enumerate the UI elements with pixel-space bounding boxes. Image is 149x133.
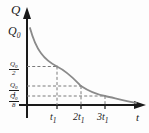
x-tick-label-3t1: 3t1: [97, 111, 109, 125]
y-tick-q0-base: Q: [8, 24, 17, 38]
y-tick-eighth-numerator: Q0: [9, 93, 19, 101]
x-tick-2t1-base: 2t: [73, 111, 81, 122]
x-tick-2t1-subscript: 1: [81, 116, 85, 125]
decay-curve: [30, 28, 136, 103]
x-tick-3t1-subscript: 1: [105, 116, 109, 125]
curve-point-2t1: [80, 85, 82, 87]
y-tick-quarter-numerator: Q0: [9, 82, 19, 90]
x-axis-label: t: [136, 112, 139, 123]
y-tick-label-q0-eighth: Q0 8: [9, 93, 19, 110]
y-tick-half-numerator: Q0: [9, 61, 19, 69]
x-tick-label-2t1: 2t1: [73, 111, 85, 125]
x-tick-label-t1: t1: [50, 111, 57, 125]
y-tick-q0-subscript: 0: [17, 31, 21, 40]
y-axis-arrowhead: [23, 7, 31, 19]
y-tick-eighth-denominator: 8: [11, 102, 17, 109]
y-tick-label-q0: Q0: [8, 25, 20, 40]
y-tick-half-denominator: 2: [11, 70, 17, 77]
y-tick-label-q0-half: Q0 2: [9, 61, 19, 78]
curve-point-3t1: [104, 95, 106, 97]
x-tick-3t1-base: 3t: [97, 111, 105, 122]
x-tick-t1-subscript: 1: [53, 116, 57, 125]
decay-curve-figure: Q t Q0 Q0 2 Q0 4 Q0 8 t1 2t1 3t1: [0, 0, 149, 133]
curve-point-t1: [56, 66, 58, 68]
y-axis-label: Q: [11, 3, 20, 16]
